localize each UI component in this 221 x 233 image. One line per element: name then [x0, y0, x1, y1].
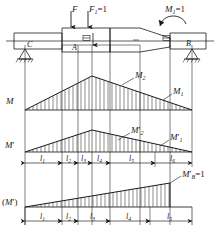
figure-root: C A B F F1=1 M1=1 M M′ (M′) M2 M1 M′2	[0, 0, 221, 233]
Mprime-curve	[25, 130, 192, 152]
dim-label-top-l2: l2	[66, 154, 71, 164]
label-moment-M1: M1=1	[164, 4, 185, 15]
section-marker-mid	[83, 36, 90, 41]
diagram-M	[25, 76, 192, 110]
Mprime1-leader	[160, 140, 169, 146]
projection-lines	[25, 45, 192, 225]
engineering-diagram-svg: C A B F F1=1 M1=1 M M′ (M′) M2 M1 M′2	[0, 0, 221, 233]
dim-label-bottom-l4: l4	[126, 212, 131, 222]
dim-label-top-l5: l5	[129, 154, 134, 164]
label-support-B: B	[186, 39, 191, 48]
axis-label-Mprime-paren: (M′)	[2, 197, 17, 207]
dim-label-bottom-l1: l1	[40, 212, 45, 222]
support-pin-left	[16, 49, 33, 63]
dim-label-bottom-l2: l2	[66, 212, 71, 222]
M-curve	[25, 76, 192, 110]
axis-label-M: M	[5, 96, 14, 106]
dim-label-top-l6: l6	[170, 154, 175, 164]
label-MprimeB: M′B=1	[181, 169, 205, 180]
dim-label-bottom-l5: l5	[167, 212, 172, 222]
diagram-Mprime	[25, 130, 192, 167]
M2-leader	[122, 78, 134, 85]
curve-label-M1: M1	[172, 86, 184, 97]
Mprime-paren-curve	[25, 183, 170, 207]
dim-label-bottom-l3: l3	[90, 212, 95, 222]
curve-label-M2: M2	[134, 70, 146, 81]
curve-label-Mprime1: M′1	[169, 132, 182, 143]
label-load-F1: F1=1	[88, 4, 107, 15]
support-pin-right	[183, 49, 200, 63]
moment-M1-arrowhead	[159, 20, 165, 26]
label-support-C: C	[27, 40, 33, 49]
curve-label-Mprime2: M′2	[130, 125, 143, 136]
beam-segment-main	[62, 28, 110, 52]
label-point-A: A	[71, 43, 77, 52]
MprimeB-leader	[170, 176, 181, 183]
moment-M1-arc	[160, 16, 186, 26]
dim-label-top-l3: l3	[81, 154, 86, 164]
M1-leader	[163, 94, 172, 100]
dim-label-top-l4: l4	[97, 154, 102, 164]
dim-label-top-l1: l1	[40, 154, 45, 164]
axis-label-Mprime: M′	[4, 140, 15, 150]
label-load-F: F	[71, 4, 78, 14]
dimension-chain-top	[25, 152, 192, 167]
